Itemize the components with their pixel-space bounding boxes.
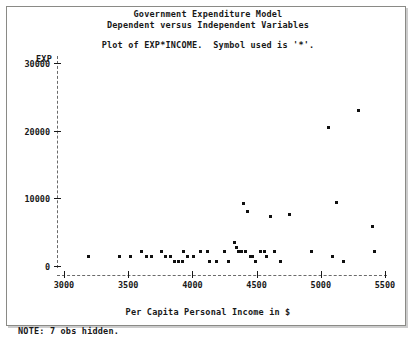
- data-point: [310, 250, 313, 253]
- y-tick-label: 10000: [0, 194, 50, 204]
- y-tick-label: 0: [0, 262, 50, 272]
- data-point: [160, 250, 163, 253]
- data-point: [273, 250, 276, 253]
- data-point: [327, 126, 330, 129]
- data-point: [215, 260, 218, 263]
- footer-note: NOTE: 7 obs hidden.: [18, 326, 119, 336]
- data-point: [357, 109, 360, 112]
- x-tick-label: 3000: [44, 280, 84, 290]
- data-point: [181, 260, 184, 263]
- data-point: [259, 250, 262, 253]
- scatter-plot: 0100002000030000 30003500400045005000550…: [0, 0, 416, 347]
- y-tick-mark: [54, 266, 61, 267]
- data-point: [265, 255, 268, 258]
- x-tick-label: 4000: [172, 280, 212, 290]
- x-axis-line: [57, 275, 387, 276]
- data-point: [150, 255, 153, 258]
- data-point: [251, 255, 254, 258]
- data-point: [192, 255, 195, 258]
- data-point: [331, 255, 334, 258]
- data-point: [173, 260, 176, 263]
- data-point: [182, 250, 185, 253]
- data-point: [87, 255, 90, 258]
- x-tick-mark: [321, 271, 322, 278]
- data-point: [186, 255, 189, 258]
- data-point: [129, 255, 132, 258]
- screenshot-root: Government Expenditure Model Dependent v…: [0, 0, 416, 347]
- data-point: [223, 250, 226, 253]
- data-point: [164, 255, 167, 258]
- x-axis-title: Per Capita Personal Income in $: [0, 307, 416, 317]
- x-tick-mark: [192, 271, 193, 278]
- x-tick-mark: [385, 271, 386, 278]
- y-tick-mark: [54, 131, 61, 132]
- data-point: [279, 260, 282, 263]
- x-tick-label: 5000: [301, 280, 341, 290]
- data-point: [206, 250, 209, 253]
- data-point: [373, 250, 376, 253]
- data-point: [288, 213, 291, 216]
- x-tick-label: 4500: [237, 280, 277, 290]
- data-point: [242, 202, 245, 205]
- y-tick-label: 20000: [0, 127, 50, 137]
- y-axis-line: [57, 56, 58, 268]
- x-tick-mark: [128, 271, 129, 278]
- data-point: [254, 260, 257, 263]
- data-point: [240, 250, 243, 253]
- data-point: [263, 250, 266, 253]
- y-tick-label: 30000: [0, 59, 50, 69]
- data-point: [169, 255, 172, 258]
- data-point: [371, 225, 374, 228]
- data-point: [199, 250, 202, 253]
- data-point: [269, 215, 272, 218]
- data-point: [208, 260, 211, 263]
- data-point: [342, 260, 345, 263]
- y-tick-mark: [54, 63, 61, 64]
- x-tick-mark: [64, 271, 65, 278]
- x-tick-mark: [257, 271, 258, 278]
- data-point: [244, 250, 247, 253]
- data-point: [140, 250, 143, 253]
- data-point: [227, 260, 230, 263]
- data-point: [145, 255, 148, 258]
- data-point: [118, 255, 121, 258]
- x-tick-label: 3500: [108, 280, 148, 290]
- data-point: [177, 260, 180, 263]
- y-tick-mark: [54, 198, 61, 199]
- data-point: [233, 241, 236, 244]
- data-point: [235, 246, 238, 249]
- data-point: [335, 201, 338, 204]
- data-point: [246, 210, 249, 213]
- x-tick-label: 5500: [365, 280, 405, 290]
